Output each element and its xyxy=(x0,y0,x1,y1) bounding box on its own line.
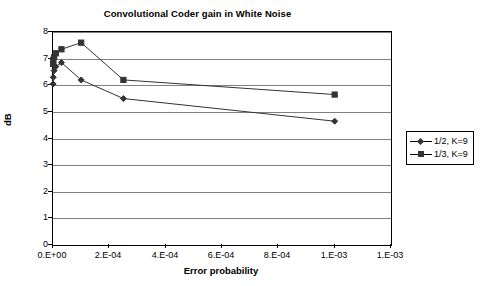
chart-title: Convolutional Coder gain in White Noise xyxy=(0,8,395,19)
x-axis-tick-label: 1.E-03 xyxy=(360,250,420,260)
series-layer xyxy=(53,32,391,245)
data-point-diamond xyxy=(332,118,338,124)
y-axis-tick-label: 2 xyxy=(34,187,48,196)
x-axis-tick-mark xyxy=(221,244,222,248)
x-axis-tick-label: 6.E-04 xyxy=(191,250,251,260)
x-axis-tick-mark xyxy=(334,244,335,248)
y-axis-tick-label: 5 xyxy=(34,107,48,116)
series-line xyxy=(53,43,335,95)
legend-item[interactable]: 1/3, K=9 xyxy=(410,148,468,161)
x-axis-tick-mark xyxy=(277,244,278,248)
x-axis-tick-label: 2.E-04 xyxy=(78,250,138,260)
y-axis-tick-labels: 012345678 xyxy=(30,31,48,244)
x-axis-tick-label: 8.E-04 xyxy=(247,250,307,260)
data-point-diamond xyxy=(120,96,126,102)
plot-area xyxy=(52,31,392,246)
y-axis-tick-label: 1 xyxy=(34,213,48,222)
data-point-diamond xyxy=(50,74,56,80)
data-point-square xyxy=(332,92,337,97)
legend-marker-diamond-icon xyxy=(410,136,432,147)
legend-item-label: 1/3, K=9 xyxy=(432,149,468,160)
legend-item-label: 1/2, K=9 xyxy=(432,136,468,147)
x-axis-tick-mark xyxy=(165,244,166,248)
y-axis-tick-label: 4 xyxy=(34,134,48,143)
chart-container: Convolutional Coder gain in White Noise … xyxy=(0,0,485,286)
x-axis-tick-mark xyxy=(390,244,391,248)
y-axis-title: dB xyxy=(2,113,13,126)
x-axis-tick-label: 4.E-04 xyxy=(135,250,195,260)
data-point-square xyxy=(59,47,64,52)
legend-item[interactable]: 1/2, K=9 xyxy=(410,135,468,148)
y-axis-tick-label: 0 xyxy=(34,240,48,249)
y-axis-tick-label: 3 xyxy=(34,160,48,169)
x-axis-tick-mark xyxy=(52,244,53,248)
y-axis-tick-label: 7 xyxy=(34,54,48,63)
y-axis-tick-label: 6 xyxy=(34,80,48,89)
x-axis-tick-label: 1.E-03 xyxy=(304,250,364,260)
x-axis-tick-mark xyxy=(108,244,109,248)
x-axis-title: Error probability xyxy=(52,265,390,276)
chart-legend: 1/2, K=9 1/3, K=9 xyxy=(406,131,474,165)
y-axis-tick-label: 8 xyxy=(34,27,48,36)
data-point-square xyxy=(121,77,126,82)
data-point-square xyxy=(79,40,84,45)
data-point-square xyxy=(53,51,58,56)
data-point-diamond xyxy=(50,81,56,87)
legend-marker-square-icon xyxy=(410,149,432,160)
x-axis-tick-label: 0.E+00 xyxy=(22,250,82,260)
